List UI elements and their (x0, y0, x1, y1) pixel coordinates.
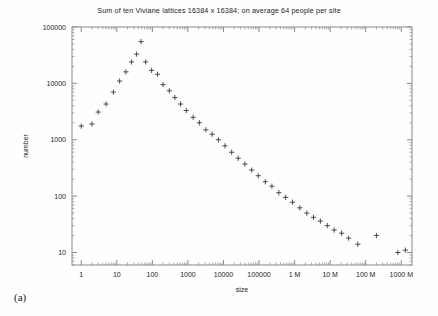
data-points (79, 39, 408, 255)
svg-text:1 M: 1 M (289, 271, 301, 278)
scatter-plot: 1101001000100001000001 M10 M100 M1000 M1… (0, 0, 438, 316)
svg-text:10: 10 (58, 249, 66, 256)
svg-text:1000: 1000 (50, 136, 66, 143)
svg-text:1000 M: 1000 M (390, 271, 414, 278)
plot-axes: 1101001000100001000001 M10 M100 M1000 M1… (43, 24, 413, 278)
svg-text:100000: 100000 (43, 24, 66, 31)
figure-panel: Sum of ten Viviane lattices 16384 x 1638… (0, 0, 438, 316)
axis-titles: sizenumber (22, 133, 248, 293)
panel-label: (a) (14, 291, 26, 303)
svg-text:10000: 10000 (47, 80, 67, 87)
svg-text:100: 100 (147, 271, 159, 278)
svg-text:number: number (22, 133, 29, 157)
svg-text:100000: 100000 (247, 271, 270, 278)
svg-text:10000: 10000 (214, 271, 234, 278)
svg-text:size: size (236, 286, 249, 293)
svg-text:100 M: 100 M (356, 271, 376, 278)
svg-text:10: 10 (113, 271, 121, 278)
svg-text:1000: 1000 (180, 271, 196, 278)
svg-text:100: 100 (54, 193, 66, 200)
svg-text:10 M: 10 M (322, 271, 338, 278)
svg-text:1: 1 (79, 271, 83, 278)
